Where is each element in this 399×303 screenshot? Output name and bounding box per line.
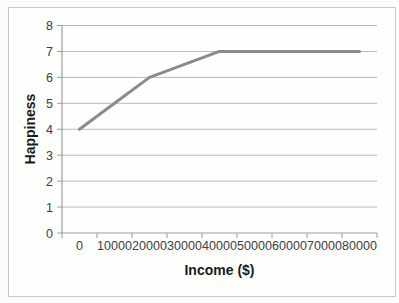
x-tick-label: 0	[76, 239, 83, 253]
x-tick-label: 40000	[202, 239, 237, 253]
y-tick-label: 5	[46, 97, 53, 111]
y-tick-label: 8	[46, 19, 53, 33]
x-axis-title: Income ($)	[62, 262, 377, 278]
x-tick-label: 60000	[272, 239, 307, 253]
x-tick-label: 30000	[167, 239, 202, 253]
y-tick-label: 4	[46, 123, 53, 137]
chart-figure: 0123456780100002000030000400005000060000…	[0, 0, 399, 303]
y-tick-label: 1	[46, 201, 53, 215]
x-tick-label: 80000	[342, 239, 377, 253]
y-tick-label: 3	[46, 149, 53, 163]
data-line-series	[80, 51, 360, 129]
y-tick-label: 7	[46, 45, 53, 59]
x-tick-label: 50000	[237, 239, 272, 253]
x-tick-label: 10000	[97, 239, 132, 253]
x-tick-label: 20000	[132, 239, 167, 253]
x-tick-label: 70000	[307, 239, 342, 253]
y-axis-title: Happiness	[22, 94, 38, 165]
y-tick-label: 0	[46, 227, 53, 241]
y-tick-label: 6	[46, 71, 53, 85]
line-chart-canvas: 0123456780100002000030000400005000060000…	[0, 0, 399, 303]
y-tick-label: 2	[46, 175, 53, 189]
